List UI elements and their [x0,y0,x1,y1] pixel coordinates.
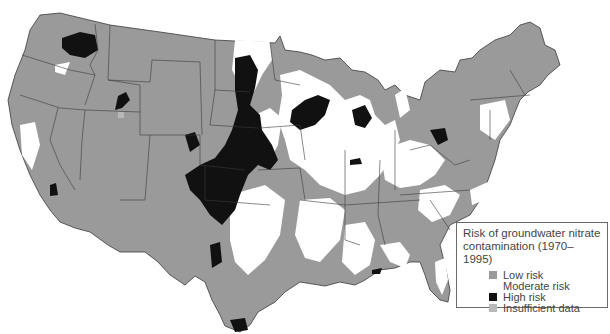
legend-item-insufficient-data: Insufficient data [489,302,601,313]
insufficient-data-regions [118,112,124,118]
legend-item-high-risk: High risk [489,291,601,302]
low-risk-swatch [489,271,497,279]
moderate-risk-swatch [489,282,497,290]
insufficient-data-swatch [489,304,497,312]
high-risk-swatch [489,293,497,301]
legend-item-low-risk: Low risk [489,269,601,280]
legend-title-line1: Risk of groundwater nitrate [463,227,601,240]
legend-item-moderate-risk: Moderate risk [489,280,601,291]
legend-title-line2: contamination (1970–1995) [463,240,601,266]
map-legend: Risk of groundwater nitrate contaminatio… [456,222,608,308]
legend-label: Insufficient data [503,302,580,314]
